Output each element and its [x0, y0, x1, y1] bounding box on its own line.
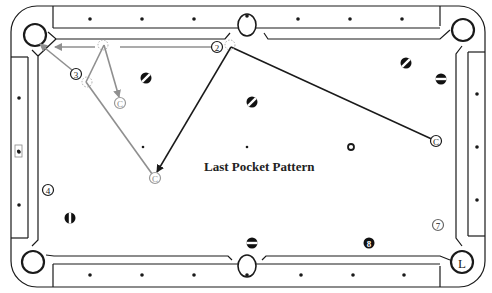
- diamond-marker: [140, 17, 144, 21]
- ghost-3-to-ghost-2: [86, 45, 104, 82]
- table-spot: [246, 146, 249, 149]
- pool-table-diagram: L 23478 CCC Last Pocket Pattern: [0, 0, 492, 293]
- cushion-top-left: [48, 32, 230, 39]
- diamond-marker: [192, 273, 196, 277]
- svg-text:4: 4: [46, 186, 51, 196]
- diamond-marker: [475, 198, 479, 202]
- diagram-title: Last Pocket Pattern: [204, 159, 315, 174]
- pocket-bottom-center: [238, 255, 256, 277]
- diamond-marker: [348, 17, 352, 21]
- diamond-marker: [475, 145, 479, 149]
- diamond-marker: [88, 17, 92, 21]
- cue-ball-position: C: [115, 98, 126, 109]
- cushion-top-right: [264, 30, 450, 39]
- cushion-right: [456, 46, 462, 246]
- svg-text:3: 3: [74, 70, 79, 80]
- cushion-bottom-right: [262, 256, 450, 260]
- ball-stripe: [141, 73, 152, 84]
- ball-stripe: [436, 74, 447, 85]
- pocket-bottom-left: [22, 251, 44, 273]
- balls: 23478: [43, 42, 447, 249]
- cue-C-to-ghost-3: [86, 82, 155, 178]
- svg-text:2: 2: [215, 43, 220, 53]
- diamond-marker: [17, 203, 21, 207]
- ball-8: 8: [364, 238, 375, 249]
- cushion-left: [32, 50, 38, 246]
- pockets: L: [22, 14, 474, 277]
- pocket-bottom-right: L: [451, 251, 473, 273]
- diamond-marker: [402, 273, 406, 277]
- pocket-label: L: [458, 256, 466, 271]
- svg-text:C: C: [152, 174, 158, 184]
- table-spot: [142, 146, 145, 149]
- ball-stripe: [401, 58, 412, 69]
- ghost-to-C: [104, 45, 119, 97]
- svg-text:C: C: [433, 137, 439, 147]
- pocket-top-left: [24, 24, 46, 46]
- ball-3: 3: [71, 69, 82, 80]
- diamond-marker: [17, 96, 21, 100]
- ball-stripe: [348, 144, 354, 150]
- ball-2: 2: [212, 42, 223, 53]
- ball-stripe: [65, 213, 76, 224]
- ball-stripe: [247, 238, 258, 249]
- cushion-bottom-left: [46, 255, 232, 260]
- diamond-marker: [351, 273, 355, 277]
- svg-text:7: 7: [436, 221, 441, 231]
- diamond-marker: [296, 17, 300, 21]
- diamond-marker: [400, 17, 404, 21]
- svg-text:C: C: [117, 99, 123, 109]
- shot-lines: [40, 44, 436, 178]
- cue-ball-position: C: [431, 136, 442, 147]
- ball-stripe: [247, 97, 258, 108]
- svg-text:8: 8: [367, 239, 372, 249]
- diamond-marker: [192, 17, 196, 21]
- diamond-marker: [299, 273, 303, 277]
- pocket-top-right: [452, 19, 474, 41]
- ball-7: 7: [433, 220, 444, 231]
- ball-3-to-pocket: [40, 44, 72, 70]
- cue-deflect-to-C: [157, 47, 231, 172]
- ball-4: 4: [43, 185, 54, 196]
- diamond-marker: [475, 92, 479, 96]
- diamond-marker: [140, 273, 144, 277]
- pocket-top-center: [238, 14, 256, 36]
- cue-ball-position: C: [150, 173, 161, 184]
- diamond-marker: [88, 273, 92, 277]
